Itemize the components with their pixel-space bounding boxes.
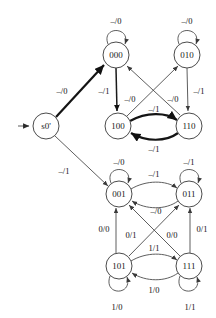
state-label-100: 100 <box>111 121 125 131</box>
state-label-111: 111 <box>183 261 196 271</box>
edge-label-010-self: –/0 <box>181 16 193 26</box>
edge-label-001-self: –/0 <box>113 157 125 167</box>
edge-label-111-011: 0/1 <box>197 224 208 234</box>
state-label-001: 001 <box>112 189 126 199</box>
state-node-111[interactable]: 111 <box>176 253 202 279</box>
edge-000-to-100 <box>116 68 117 111</box>
edge-label-000-100: –/1 <box>98 86 110 96</box>
edge-111-to-101 <box>132 273 178 280</box>
state-node-000[interactable]: 000 <box>103 42 129 68</box>
edge-001-to-011 <box>131 182 177 189</box>
edge-label-000-self: –/0 <box>110 16 122 26</box>
state-node-010[interactable]: 010 <box>174 42 200 68</box>
edge-label-s0-000: –/0 <box>56 86 68 96</box>
edge-label-010-110: –/1 <box>193 86 205 96</box>
state-label-110: 110 <box>182 121 196 131</box>
edge-label-011-self: –/1 <box>183 157 195 167</box>
state-label-101: 101 <box>112 261 126 271</box>
edge-label-011-001: –/0 <box>150 206 162 216</box>
edge-100-to-110 <box>130 114 177 121</box>
state-node-101[interactable]: 101 <box>106 253 132 279</box>
state-label-000: 000 <box>109 50 123 60</box>
edge-110-to-100 <box>131 133 178 140</box>
state-node-001[interactable]: 001 <box>106 181 132 207</box>
state-node-110[interactable]: 110 <box>176 113 202 139</box>
edge-label-111-101: 1/0 <box>149 285 160 295</box>
edge-label-001-011: –/1 <box>148 169 160 179</box>
state-node-100[interactable]: 100 <box>105 113 131 139</box>
edge-label-101-011: 0/0 <box>167 230 178 240</box>
edge-label-100-110: –/1 <box>148 104 160 114</box>
edge-label-110-000: –/0 <box>124 94 136 104</box>
state-label-011: 011 <box>182 189 195 199</box>
state-label-010: 010 <box>180 50 194 60</box>
edge-label-111-001: 0/1 <box>126 230 137 240</box>
edge-label-s0-001: –/1 <box>58 166 70 176</box>
edge-101-to-111 <box>131 254 177 261</box>
edge-label-111-self: 1/1 <box>185 302 196 312</box>
edge-010-to-110 <box>187 68 188 111</box>
edge-label-100-010: –/0 <box>167 94 179 104</box>
edge-label-101-001: 0/0 <box>99 224 110 234</box>
fsm-canvas: –/0 –/1 –/0 –/0 –/0 –/1 1/0 1/1 –/1 –/1 <box>0 0 216 318</box>
state-label-s0: s0' <box>41 121 51 131</box>
state-node-011[interactable]: 011 <box>176 181 202 207</box>
state-node-s0[interactable]: s0' <box>33 113 59 139</box>
edge-label-101-111: 1/1 <box>149 243 160 253</box>
fsm-diagram: –/0 –/1 –/0 –/0 –/0 –/1 1/0 1/1 –/1 –/1 <box>0 0 216 318</box>
edge-label-110-100: –/1 <box>148 144 160 154</box>
edge-label-101-self: 1/0 <box>112 302 123 312</box>
edge-s0-to-001 <box>55 136 108 186</box>
